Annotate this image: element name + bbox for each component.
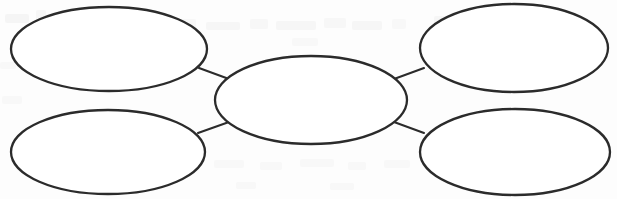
bottom-right-node[interactable] — [420, 109, 610, 195]
top-left-node[interactable] — [11, 7, 207, 91]
connector-top-left — [199, 68, 229, 79]
center-node[interactable] — [215, 56, 407, 144]
bottom-left-node[interactable] — [11, 110, 205, 194]
top-right-node[interactable] — [420, 4, 608, 92]
connector-bottom-left — [198, 122, 229, 133]
connector-top-right — [394, 68, 424, 79]
concept-web-diagram — [0, 0, 617, 199]
graphic-organizer-page — [0, 0, 617, 199]
connector-bottom-right — [394, 122, 424, 133]
node-group — [11, 4, 610, 195]
